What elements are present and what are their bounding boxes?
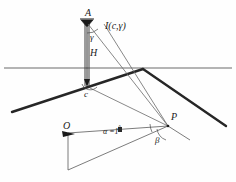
diagram-canvas-container: A I(c,γ) γ H c P O α =1° β xyxy=(0,0,236,182)
label-beta-angle: β xyxy=(155,136,159,145)
road-edge-right xyxy=(143,69,226,126)
beta-ray xyxy=(168,126,190,140)
label-height-H: H xyxy=(90,48,97,58)
observer-marker-icon xyxy=(62,131,75,137)
luminaire-head-icon xyxy=(81,20,93,27)
label-point-c: c xyxy=(84,90,88,99)
road-edge-left xyxy=(12,69,143,112)
intensity-ray-to-P xyxy=(88,24,168,126)
label-gamma-angle: γ xyxy=(90,33,94,42)
label-degree-symbol: ° xyxy=(119,125,121,131)
label-alpha-symbol: α = xyxy=(103,127,115,136)
label-point-P: P xyxy=(171,112,177,122)
label-alpha-angle: α =1° xyxy=(103,125,121,136)
point-P-dot xyxy=(167,125,170,128)
label-point-O: O xyxy=(63,121,70,131)
label-apex-A: A xyxy=(85,8,91,18)
label-intensity: I(c,γ) xyxy=(105,21,126,31)
alpha-angle-arc xyxy=(150,124,152,132)
